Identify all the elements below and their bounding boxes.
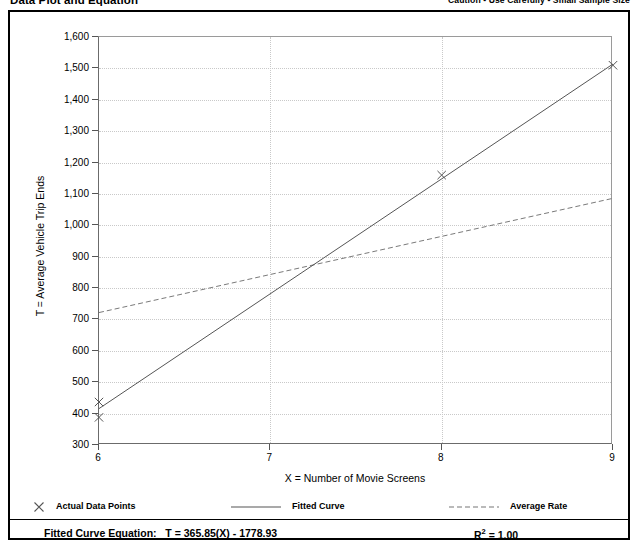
x-tick-label: 8 [438,452,444,463]
y-tick-label: 1,100 [64,187,89,198]
fitted-curve-line [99,64,613,409]
y-tick-label: 700 [72,313,89,324]
data-point-marker [95,398,103,406]
x-tick-mark [269,444,270,450]
y-axis-title: T = Average Vehicle Trip Ends [34,116,46,376]
legend-label-actual-data-points: Actual Data Points [56,501,136,511]
y-tick-label: 1,500 [64,62,89,73]
y-tick-label: 1,400 [64,93,89,104]
data-point-marker [437,171,445,179]
x-tick-mark [441,444,442,450]
x-tick-mark [98,444,99,450]
x-marker-icon [32,500,46,518]
actual-data-points [95,61,617,422]
x-tick-label: 6 [95,452,101,463]
x-tick-label: 9 [609,452,615,463]
r-squared-value: R2 = 1.00 [474,527,518,541]
dashed-line-icon [448,500,500,518]
footer-divider [10,519,628,520]
y-tick-label: 1,000 [64,219,89,230]
legend-label-fitted-curve: Fitted Curve [292,501,345,511]
y-tick-label: 900 [72,250,89,261]
y-tick-label: 400 [72,407,89,418]
fitted-curve-equation: Fitted Curve Equation: T = 365.85(X) - 1… [44,527,277,539]
data-point-marker [609,61,617,69]
y-tick-label: 1,300 [64,125,89,136]
x-tick-mark [612,444,613,450]
y-tick-label: 800 [72,282,89,293]
y-tick-label: 1,200 [64,156,89,167]
fitted-curve-path [99,64,613,409]
x-tick-label: 7 [267,452,273,463]
r-squared-number: = 1.00 [489,529,519,541]
series-layer [99,37,613,445]
average-rate-path [99,198,613,312]
r-squared-prefix: R [474,529,482,541]
r-squared-exponent: 2 [482,527,486,536]
x-axis-title: X = Number of Movie Screens [98,472,612,484]
chart-legend: Actual Data Points Fitted Curve Average … [8,498,630,518]
equation-label: Fitted Curve Equation: [44,527,157,539]
y-tick-label: 1,600 [64,31,89,42]
plot-area [98,36,612,444]
equation-expression: T = 365.85(X) - 1778.93 [165,527,277,539]
solid-line-icon [230,500,282,518]
y-tick-label: 500 [72,376,89,387]
y-tick-label: 300 [72,439,89,450]
data-point-marker [95,413,103,421]
chart-figure: T = Average Vehicle Trip Ends 3004005006… [0,0,638,548]
y-tick-label: 600 [72,344,89,355]
average-rate-line [99,198,613,312]
legend-label-average-rate: Average Rate [510,501,567,511]
